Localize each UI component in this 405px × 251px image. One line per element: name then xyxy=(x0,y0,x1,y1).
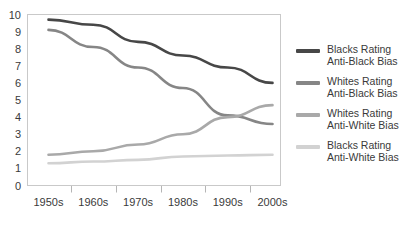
legend-color-swatch xyxy=(296,81,320,85)
legend-item[interactable]: Whites Rating Anti-White Bias xyxy=(296,108,404,131)
line-chart-svg: 012345678910 1950s1960s1970s1980s1990s20… xyxy=(0,0,290,215)
y-axis-tick-labels: 012345678910 xyxy=(9,9,21,192)
chart-legend: Blacks Rating Anti-Black BiasWhites Rati… xyxy=(296,44,404,172)
x-axis-tick-marks xyxy=(72,186,251,193)
y-tick-label: 0 xyxy=(15,180,21,192)
x-tick-label: 2000s xyxy=(258,196,288,208)
series-line xyxy=(49,20,273,83)
legend-label: Whites Rating Anti-Black Bias xyxy=(327,76,398,99)
x-tick-label: 1960s xyxy=(78,196,108,208)
series-lines-group xyxy=(49,20,273,164)
legend-item[interactable]: Whites Rating Anti-Black Bias xyxy=(296,76,404,99)
x-tick-label: 1950s xyxy=(34,196,64,208)
y-tick-label: 5 xyxy=(15,94,21,106)
y-tick-label: 4 xyxy=(15,111,21,123)
legend-color-swatch xyxy=(296,49,320,53)
x-axis-tick-labels: 1950s1960s1970s1980s1990s2000s xyxy=(34,196,288,208)
y-tick-label: 6 xyxy=(15,77,21,89)
y-tick-label: 10 xyxy=(9,9,21,21)
series-line xyxy=(49,105,273,155)
x-tick-label: 1990s xyxy=(213,196,243,208)
legend-item[interactable]: Blacks Rating Anti-Black Bias xyxy=(296,44,404,67)
y-tick-label: 1 xyxy=(15,162,21,174)
y-tick-label: 2 xyxy=(15,145,21,157)
y-tick-label: 7 xyxy=(15,60,21,72)
legend-color-swatch xyxy=(296,113,320,117)
series-line xyxy=(49,30,273,124)
x-tick-label: 1980s xyxy=(168,196,198,208)
legend-item[interactable]: Blacks Rating Anti-White Bias xyxy=(296,140,404,163)
legend-label: Blacks Rating Anti-White Bias xyxy=(327,140,399,163)
y-tick-label: 3 xyxy=(15,128,21,140)
legend-color-swatch xyxy=(296,145,320,149)
legend-label: Whites Rating Anti-White Bias xyxy=(327,108,399,131)
legend-label: Blacks Rating Anti-Black Bias xyxy=(327,44,398,67)
y-tick-label: 9 xyxy=(15,26,21,38)
series-line xyxy=(49,155,273,164)
plot-area: 012345678910 1950s1960s1970s1980s1990s20… xyxy=(0,0,290,215)
chart-figure: 012345678910 1950s1960s1970s1980s1990s20… xyxy=(0,0,405,251)
y-tick-label: 8 xyxy=(15,43,21,55)
x-tick-label: 1970s xyxy=(123,196,153,208)
